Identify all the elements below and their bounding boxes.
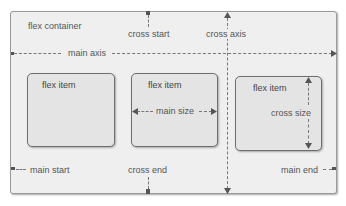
main-axis-label: main axis (68, 48, 106, 58)
cross-axis-label: cross axis (206, 29, 246, 39)
main-size-line-left (137, 111, 153, 112)
cross-end-label: cross end (128, 165, 167, 175)
main-size-label: main size (156, 106, 194, 116)
flex-item-2-label: flex item (148, 80, 182, 90)
cross-size-line-top (308, 83, 309, 105)
flex-container-label: flex container (28, 21, 82, 31)
cross-size-label: cross size (271, 108, 311, 118)
cross-size-line-bottom (308, 119, 309, 144)
cross-end-marker-icon (145, 188, 152, 194)
cross-axis-line (227, 18, 228, 194)
main-start-line (16, 169, 26, 170)
cross-start-label: cross start (128, 29, 170, 39)
main-axis-arrow-icon (331, 50, 338, 57)
main-axis-line-left (14, 53, 61, 54)
main-axis-start-icon (10, 50, 16, 57)
cross-axis-arrow-down-icon (224, 188, 231, 195)
flex-item-1-label: flex item (42, 80, 76, 90)
main-end-label: main end (281, 165, 318, 175)
cross-axis-arrow-up-icon (224, 12, 231, 19)
cross-size-arrow-down-icon (305, 143, 312, 149)
main-start-label: main start (30, 165, 70, 175)
main-size-arrow-right-icon (211, 108, 217, 115)
main-axis-line-right (112, 53, 332, 54)
cross-start-line (148, 15, 149, 27)
flex-item-3-label: flex item (253, 83, 287, 93)
main-end-marker-icon (331, 166, 337, 172)
